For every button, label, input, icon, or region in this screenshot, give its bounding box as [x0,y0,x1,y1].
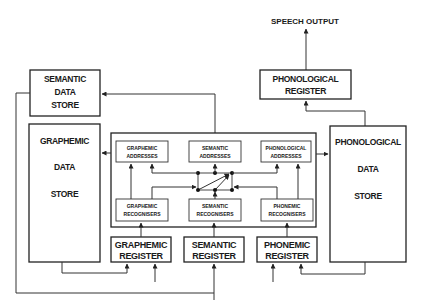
svg-text:GRAPHEMIC: GRAPHEMIC [127,203,158,209]
svg-text:SEMANTIC: SEMANTIC [192,240,237,250]
cognitive-model-diagram: SPEECH OUTPUT PHONOLOGICAL REGISTER SEMA… [0,0,422,308]
switch-matrix [196,171,234,192]
graphemic-data-store-box: GRAPHEMIC DATA STORE [29,124,100,262]
graphemic-addresses-box: GRAPHEMIC ADDRESSES [116,141,168,162]
svg-text:GRAPHEMIC: GRAPHEMIC [127,145,158,151]
svg-text:SEMANTIC: SEMANTIC [202,203,229,209]
store-to-register-arrow [306,101,365,126]
svg-text:REGISTER: REGISTER [119,251,163,261]
svg-text:PHONOLOGICAL: PHONOLOGICAL [335,137,401,147]
speech-output-label: SPEECH OUTPUT [271,17,339,26]
svg-text:GRAPHEMIC: GRAPHEMIC [115,240,168,250]
svg-text:STORE: STORE [51,100,79,110]
semantic-recognisers-box: SEMANTIC RECOGNISERS [189,199,241,221]
svg-text:SEMANTIC: SEMANTIC [202,145,229,151]
phonological-data-store-box: PHONOLOGICAL DATA STORE [330,126,406,262]
svg-text:DATA: DATA [54,87,75,97]
svg-text:RECOGNISERS: RECOGNISERS [124,211,162,217]
svg-text:SEMANTIC: SEMANTIC [44,74,86,84]
svg-text:PHONEMIC: PHONEMIC [264,240,311,250]
semantic-data-store-box: SEMANTIC DATA STORE [30,70,100,116]
svg-text:PHONOLOGICAL: PHONOLOGICAL [273,74,339,84]
phonological-register-box: PHONOLOGICAL REGISTER [260,70,351,99]
graphemic-recognisers-box: GRAPHEMIC RECOGNISERS [116,199,168,221]
svg-text:ADDRESSES: ADDRESSES [199,153,231,159]
svg-text:DATA: DATA [54,162,75,172]
svg-text:RECOGNISERS: RECOGNISERS [269,211,307,217]
svg-text:STORE: STORE [51,189,79,199]
svg-text:REGISTER: REGISTER [285,86,326,96]
svg-text:GRAPHEMIC: GRAPHEMIC [40,136,89,146]
phonemic-recognisers-box: PHONEMIC RECOGNISERS [261,199,313,221]
svg-text:ADDRESSES: ADDRESSES [126,153,158,159]
graphemic-register-box: GRAPHEMIC REGISTER [111,237,171,262]
phonological-addresses-box: PHONOLOGICAL ADDRESSES [261,141,311,162]
graphemic-store-to-register [62,262,127,273]
svg-text:PHONOLOGICAL: PHONOLOGICAL [266,145,307,151]
phonological-store-to-register [301,262,365,274]
svg-text:REGISTER: REGISTER [192,251,236,261]
svg-text:RECOGNISERS: RECOGNISERS [197,211,235,217]
phonemic-register-box: PHONEMIC REGISTER [257,237,317,262]
svg-text:PHONEMIC: PHONEMIC [274,203,301,209]
semantic-register-box: SEMANTIC REGISTER [184,237,244,262]
semantic-addresses-box: SEMANTIC ADDRESSES [189,141,241,162]
svg-text:DATA: DATA [357,164,378,174]
svg-text:ADDRESSES: ADDRESSES [270,153,302,159]
svg-text:STORE: STORE [354,191,382,201]
svg-text:REGISTER: REGISTER [265,251,309,261]
